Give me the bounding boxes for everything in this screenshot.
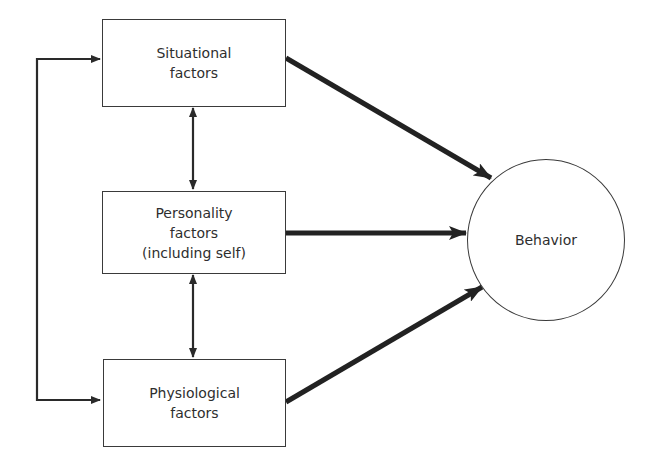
node-label-line: (including self) xyxy=(142,243,246,263)
arrow-situational-to-behavior xyxy=(286,58,491,178)
physiological-factors-node: Physiological factors xyxy=(103,359,286,447)
behavior-label: Behavior xyxy=(515,232,577,248)
node-label-line: factors xyxy=(170,63,218,83)
behavior-node: Behavior xyxy=(467,159,625,321)
node-label-line: Personality xyxy=(155,203,232,223)
behavior-determinants-diagram: Situational factors Personality factors … xyxy=(0,0,653,470)
node-label-line: factors xyxy=(170,403,218,423)
personality-factors-node: Personality factors (including self) xyxy=(102,191,286,274)
node-label-line: Physiological xyxy=(149,383,240,403)
loop-connector-situational-physiological xyxy=(37,59,100,400)
situational-factors-node: Situational factors xyxy=(102,19,286,107)
node-label-line: factors xyxy=(170,223,218,243)
arrow-physiological-to-behavior xyxy=(286,287,482,402)
node-label-line: Situational xyxy=(156,43,231,63)
